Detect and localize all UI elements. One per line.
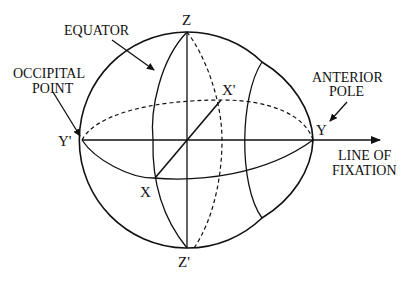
point-y: Y xyxy=(316,122,327,138)
anterior-label-1: ANTERIOR xyxy=(312,70,383,85)
point-x: X xyxy=(140,184,151,200)
anterior-label-2: POLE xyxy=(329,84,364,99)
point-y-prime: Y' xyxy=(58,133,72,149)
occipital-label-1: OCCIPITAL xyxy=(13,66,85,81)
occipital-label-2: POINT xyxy=(32,81,74,96)
point-z: Z xyxy=(182,12,191,28)
x-axis xyxy=(155,100,221,178)
equator-pointer xyxy=(112,40,154,70)
point-z-prime: Z' xyxy=(178,254,190,270)
point-x-prime: X' xyxy=(222,82,236,98)
occipital-pointer xyxy=(53,92,80,136)
fixation-label-1: LINE OF xyxy=(338,148,391,163)
fixation-label-2: FIXATION xyxy=(332,163,397,178)
horizontal-circle-back xyxy=(82,100,313,140)
horizontal-circle-front xyxy=(82,140,313,179)
anterior-pointer xyxy=(330,102,347,121)
equator-label: EQUATOR xyxy=(64,23,130,38)
eye-axes-diagram: EQUATOR OCCIPITAL POINT ANTERIOR POLE LI… xyxy=(0,0,420,281)
